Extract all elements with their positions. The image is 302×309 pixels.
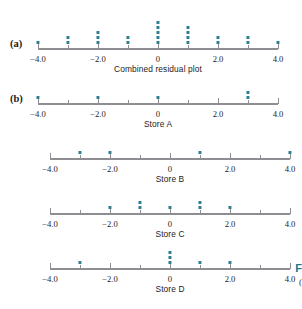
data-point xyxy=(198,206,201,209)
panel-tag-b: (b) xyxy=(10,93,23,104)
axis-tick xyxy=(50,208,51,214)
data-point xyxy=(156,36,159,39)
axis-tick-label: −4.0 xyxy=(42,274,58,284)
data-point xyxy=(246,96,249,99)
axis-tick xyxy=(200,265,201,269)
axis-tick xyxy=(188,45,189,49)
data-point xyxy=(228,261,231,264)
axis-tick xyxy=(80,155,81,159)
data-point xyxy=(96,41,99,44)
data-point xyxy=(156,31,159,34)
axis-tick-label: 4.0 xyxy=(273,54,284,64)
axis-tick-label: −2.0 xyxy=(102,274,118,284)
data-point xyxy=(216,36,219,39)
dotplot-figure: (a) (b) −4.0−2.002.04.0Combined residual… xyxy=(0,0,302,309)
axis-tick xyxy=(170,153,171,159)
axis-tick xyxy=(128,100,129,104)
figure-caption-text-fragment: ( xyxy=(299,277,302,287)
axis-tick-label: 4.0 xyxy=(285,164,296,174)
data-point xyxy=(96,36,99,39)
data-point xyxy=(216,41,219,44)
axis-tick-label: 0 xyxy=(168,164,172,174)
data-point xyxy=(168,206,171,209)
data-point xyxy=(168,261,171,264)
axis-tick xyxy=(260,155,261,159)
data-point xyxy=(108,206,111,209)
data-point xyxy=(66,36,69,39)
data-point xyxy=(36,41,39,44)
axis-tick xyxy=(290,263,291,269)
axis-tick-label: −4.0 xyxy=(42,164,58,174)
axis-tick xyxy=(200,155,201,159)
data-point xyxy=(78,151,81,154)
axis-tick-label: 2.0 xyxy=(213,54,224,64)
data-point xyxy=(78,261,81,264)
data-point xyxy=(228,206,231,209)
axis-tick xyxy=(50,153,51,159)
axis-tick xyxy=(248,45,249,49)
data-point xyxy=(186,31,189,34)
axis-tick-label: −2.0 xyxy=(90,54,106,64)
axis-tick-label: −2.0 xyxy=(102,219,118,229)
data-point xyxy=(126,36,129,39)
axis-tick-label: −4.0 xyxy=(30,54,46,64)
axis-tick xyxy=(128,45,129,49)
axis-tick-label: 0 xyxy=(156,109,160,119)
axis-tick xyxy=(230,153,231,159)
data-point xyxy=(186,26,189,29)
data-point xyxy=(156,41,159,44)
axis-tick-label: −2.0 xyxy=(102,164,118,174)
axis-tick-label: 2.0 xyxy=(213,109,224,119)
axis-tick xyxy=(188,100,189,104)
data-point xyxy=(186,36,189,39)
data-point xyxy=(156,96,159,99)
axis-tick xyxy=(110,263,111,269)
data-point xyxy=(198,201,201,204)
data-point xyxy=(198,151,201,154)
data-point xyxy=(96,31,99,34)
axis-tick-label: 2.0 xyxy=(225,164,236,174)
data-point xyxy=(246,36,249,39)
axis-tick xyxy=(80,210,81,214)
data-point xyxy=(36,96,39,99)
axis-tick xyxy=(140,265,141,269)
data-point xyxy=(96,96,99,99)
data-point xyxy=(126,41,129,44)
data-point xyxy=(276,41,279,44)
axis-tick-label: −2.0 xyxy=(90,109,106,119)
data-point xyxy=(168,256,171,259)
data-point xyxy=(108,151,111,154)
axis-tick xyxy=(260,210,261,214)
axis-tick-label: 2.0 xyxy=(225,274,236,284)
data-point xyxy=(246,41,249,44)
axis-tick-label: −4.0 xyxy=(42,219,58,229)
data-point xyxy=(168,251,171,254)
panel-tag-a: (a) xyxy=(10,38,22,49)
data-point xyxy=(198,261,201,264)
axis-tick xyxy=(50,263,51,269)
axis-tick xyxy=(200,210,201,214)
data-point xyxy=(156,26,159,29)
axis-tick xyxy=(278,98,279,104)
axis-tick xyxy=(248,100,249,104)
axis-tick xyxy=(218,98,219,104)
axis-tick xyxy=(290,208,291,214)
axis-tick xyxy=(68,100,69,104)
plot-caption: Store C xyxy=(155,229,184,239)
axis-tick-label: 4.0 xyxy=(273,109,284,119)
axis-tick xyxy=(140,155,141,159)
axis-tick xyxy=(260,265,261,269)
axis-tick-label: −4.0 xyxy=(30,109,46,119)
axis-tick-label: 2.0 xyxy=(225,219,236,229)
data-point xyxy=(186,41,189,44)
axis-tick xyxy=(140,210,141,214)
plot-caption: Store B xyxy=(156,174,185,184)
plot-caption: Store D xyxy=(155,284,184,294)
data-point xyxy=(246,91,249,94)
plot-caption: Store A xyxy=(144,119,172,129)
data-point xyxy=(138,206,141,209)
axis-tick-label: 0 xyxy=(168,219,172,229)
data-point xyxy=(138,201,141,204)
data-point xyxy=(288,151,291,154)
data-point xyxy=(66,41,69,44)
